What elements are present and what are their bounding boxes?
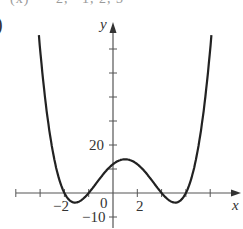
x-tick-label-neg2: −2 xyxy=(53,199,69,214)
x-tick-label-2: 2 xyxy=(136,199,144,214)
y-tick-label-20: 20 xyxy=(89,138,104,153)
y-axis-label: y xyxy=(100,17,107,32)
plot-area xyxy=(0,0,243,229)
y-axis xyxy=(110,22,117,228)
x-axis-arrow-icon xyxy=(231,190,241,197)
function-curve xyxy=(39,35,212,202)
x-axis-label: x xyxy=(232,198,239,213)
x-axis xyxy=(16,190,241,197)
y-axis-arrow-icon xyxy=(110,22,117,33)
y-tick-label-neg10: −10 xyxy=(82,210,105,225)
